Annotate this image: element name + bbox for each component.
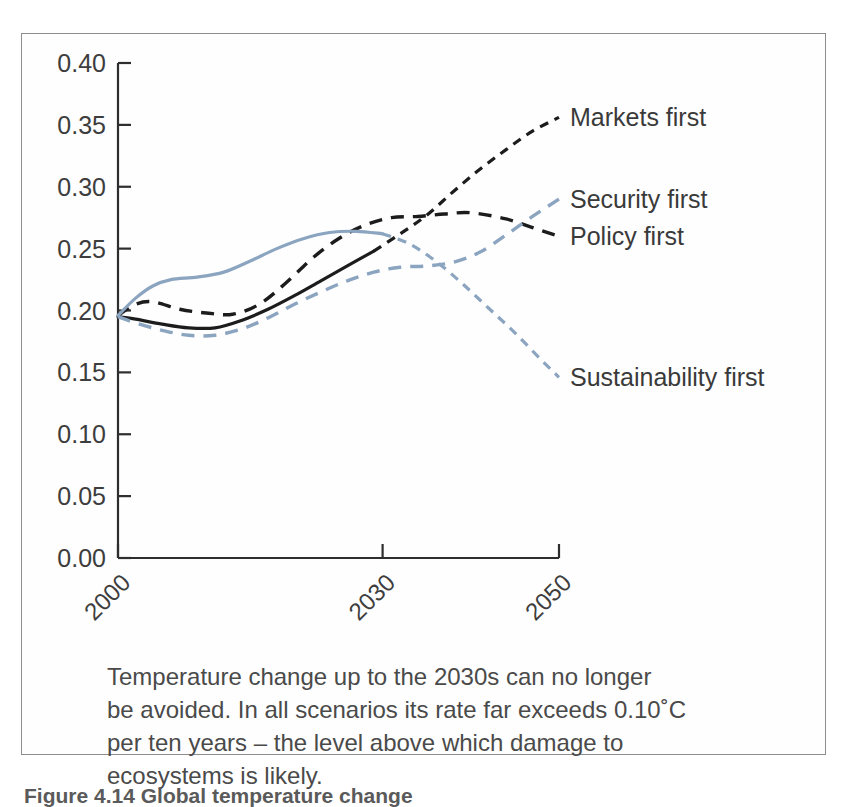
y-tick-label-0.20: 0.20 — [57, 297, 106, 325]
x-tick-label-2030: 2030 — [343, 568, 400, 625]
y-tick-label-0.25: 0.25 — [57, 235, 106, 263]
y-tick-label-0.15: 0.15 — [57, 358, 106, 386]
chart-series-lines — [118, 117, 559, 377]
series-label-markets-first: Markets first — [570, 103, 706, 131]
chart-series-labels: Markets firstPolicy firstSecurity firstS… — [570, 103, 765, 391]
y-tick-label-0.40: 0.40 — [57, 49, 106, 77]
figure-caption: Temperature change up to the 2030s can n… — [107, 660, 667, 792]
caption-line-1: Temperature change up to the 2030s can n… — [107, 660, 667, 693]
caption-line-3: per ten years – the level above which da… — [107, 726, 667, 759]
series-line-markets-first-dashed — [374, 117, 559, 251]
y-tick-label-0.30: 0.30 — [57, 173, 106, 201]
y-tick-label-0.05: 0.05 — [57, 482, 106, 510]
series-label-policy-first: Policy first — [570, 222, 684, 250]
figure-frame: 0.000.050.100.150.200.250.300.350.40 200… — [21, 33, 826, 755]
caption-line-2: be avoided. In all scenarios its rate fa… — [107, 693, 667, 726]
y-tick-label-0.35: 0.35 — [57, 111, 106, 139]
series-line-sustainability-first-dashed — [383, 234, 559, 378]
y-axis-tick-labels: 0.000.050.100.150.200.250.300.350.40 — [57, 49, 106, 572]
y-tick-label-0.10: 0.10 — [57, 420, 106, 448]
y-tick-label-0.00: 0.00 — [57, 544, 106, 572]
series-label-security-first: Security first — [570, 185, 708, 213]
x-axis-ticks — [118, 544, 559, 558]
x-axis-tick-labels: 200020302050 — [79, 568, 577, 625]
figure-number-title: Figure 4.14 Global temperature change — [24, 784, 413, 807]
x-tick-label-2000: 2000 — [79, 568, 136, 625]
series-label-sustainability-first: Sustainability first — [570, 363, 765, 391]
series-line-security-first — [118, 199, 559, 336]
series-line-sustainability-first-solid — [118, 231, 383, 315]
temperature-change-line-chart: 0.000.050.100.150.200.250.300.350.40 200… — [22, 34, 825, 634]
x-tick-label-2050: 2050 — [520, 568, 577, 625]
series-line-policy-first — [118, 212, 559, 315]
